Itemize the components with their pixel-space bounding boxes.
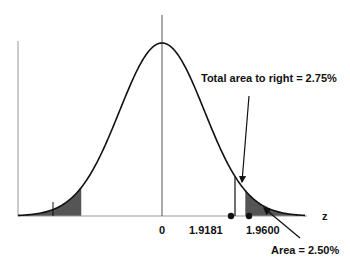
arrow-total-area xyxy=(242,96,249,182)
tick-label-1.9181: 1.9181 xyxy=(189,224,223,236)
right-tail-shaded-area xyxy=(245,191,305,216)
axis-label-z: z xyxy=(322,210,328,222)
tick-label-0: 0 xyxy=(159,224,165,236)
annotation-total-area: Total area to right = 2.75% xyxy=(201,72,337,84)
point-z-1.9181 xyxy=(228,213,234,219)
point-z-1.9600 xyxy=(246,213,252,219)
normal-distribution-chart: z 0 1.9181 1.9600 Total area to right = … xyxy=(0,0,350,267)
left-tail-shaded-area xyxy=(18,188,81,216)
tick-label-1.9600: 1.9600 xyxy=(246,224,280,236)
annotation-area: Area = 2.50% xyxy=(271,244,339,256)
